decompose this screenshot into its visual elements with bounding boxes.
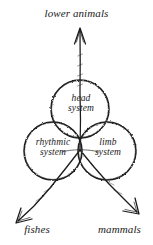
label-rhythmic-system: rhythmic system <box>22 138 84 158</box>
label-mammals: mammals <box>88 224 151 236</box>
arrow-up <box>62 28 99 152</box>
diagram-canvas <box>0 0 153 245</box>
label-limb-system-line1: limb <box>99 137 116 147</box>
label-head-system-line1: head <box>72 93 91 103</box>
label-head-system-line2: system <box>68 103 94 113</box>
label-limb-system-line2: system <box>95 147 121 157</box>
label-fishes: fishes <box>6 224 68 236</box>
label-limb-system: limb system <box>84 138 132 158</box>
label-head-system: head system <box>54 94 108 114</box>
label-rhythmic-system-line1: rhythmic <box>36 137 70 147</box>
threefold-organism-diagram: lower animals fishes mammals head system… <box>0 0 153 245</box>
arrow-down-right <box>80 150 139 214</box>
label-lower-animals: lower animals <box>0 8 153 20</box>
label-rhythmic-system-line2: system <box>40 147 66 157</box>
